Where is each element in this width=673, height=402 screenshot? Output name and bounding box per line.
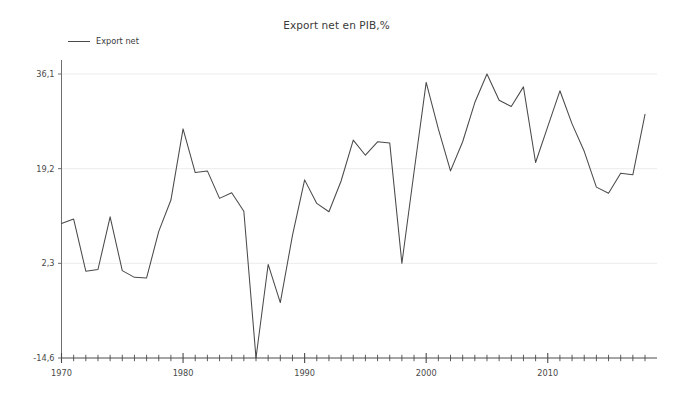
x-tick-label: 1970	[51, 368, 72, 378]
x-tick-label: 1980	[173, 368, 194, 378]
x-tick-label: 1990	[294, 368, 315, 378]
series-line-0[interactable]	[62, 74, 646, 358]
x-tick-label: 2000	[416, 368, 437, 378]
x-tick-label: 2010	[537, 368, 558, 378]
y-tick-label: -14,6	[33, 353, 54, 363]
y-tick-label: 2,3	[41, 258, 54, 268]
y-tick-label: 19,2	[36, 164, 54, 174]
plot-area: 36,119,22,3-14,619701980199020002010	[0, 0, 673, 402]
y-tick-label: 36,1	[36, 69, 54, 79]
chart-container: Export net en PIB,% Export net 36,119,22…	[0, 0, 673, 402]
